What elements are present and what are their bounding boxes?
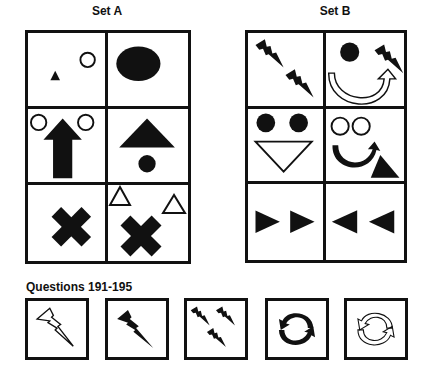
black-circular-arrows-icon [268,301,326,357]
outline-circular-arrows-icon [347,301,405,357]
question-193[interactable] [184,298,248,360]
question-194[interactable] [265,298,329,360]
question-192[interactable] [105,298,169,360]
black-lightning-bolt-icon [108,301,166,357]
questions-label: Questions 191-195 [26,280,132,294]
set-a-cell-3-1 [28,185,108,261]
set-a-cell-2-1 [28,109,108,185]
set-b-cell-3-1 [248,184,326,260]
set-b-cell-2-2 [326,109,404,185]
set-a-cell-1-1 [28,33,108,109]
set-b-title: Set B [285,4,385,18]
right-pointing-triangles-icon [248,184,323,260]
triangle-and-circle-icon [28,33,105,106]
up-arrow-with-circles-icon [28,109,105,182]
set-b-cell-1-1 [248,33,326,109]
circles-arrow-triangle-icon [326,109,404,182]
question-195[interactable] [344,298,408,360]
set-a-cell-1-2 [108,33,188,109]
set-a-cell-2-2 [108,109,188,185]
dots-above-down-triangle-icon [248,109,323,182]
dot-bolt-curved-arrow-icon [326,33,404,106]
outline-lightning-bolt-icon [28,301,86,357]
x-with-triangles-icon [108,185,188,261]
set-a-grid [25,30,191,264]
two-lightning-bolts-icon [248,33,323,106]
question-191[interactable] [25,298,89,360]
set-a-cell-3-2 [108,185,188,261]
three-lightning-bolts-icon [187,301,245,357]
left-pointing-triangles-icon [326,184,404,260]
set-b-grid [245,30,407,263]
black-oval-icon [108,33,188,106]
set-b-cell-2-1 [248,109,326,185]
triangle-above-dot-icon [108,109,188,182]
black-x-icon [28,185,105,261]
set-a-title: Set A [57,4,157,18]
set-b-cell-3-2 [326,184,404,260]
set-b-cell-1-2 [326,33,404,109]
